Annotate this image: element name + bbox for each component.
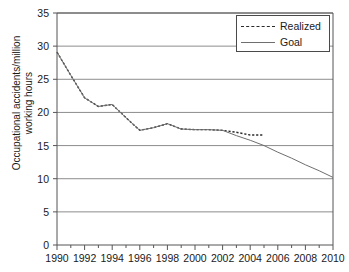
series-line-realized (57, 52, 264, 135)
legend-entry-realized: Realized (241, 18, 327, 34)
legend-label-realized: Realized (280, 21, 321, 32)
series-lines (57, 52, 333, 177)
legend-entry-goal: Goal (241, 34, 327, 50)
legend: Realized Goal (236, 15, 330, 52)
legend-swatch-goal-icon (241, 42, 275, 43)
legend-label-goal: Goal (280, 37, 302, 48)
legend-swatch-realized-icon (241, 26, 275, 27)
series-line-goal (57, 52, 333, 177)
